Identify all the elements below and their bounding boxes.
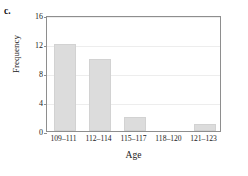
x-axis-tick-label: 121–123 bbox=[190, 134, 217, 143]
y-axis-tick-label: 0 bbox=[39, 128, 43, 137]
x-axis-tick-labels: 109–111112–114115–117118–120121–123 bbox=[46, 134, 221, 146]
x-axis-tick-label: 118–120 bbox=[155, 134, 181, 143]
y-axis-tick-label: 16 bbox=[35, 12, 43, 21]
y-axis-title: Frequency bbox=[11, 14, 21, 94]
bar bbox=[124, 117, 146, 132]
x-axis-title: Age bbox=[46, 150, 221, 160]
y-axis-tick-mark bbox=[44, 75, 47, 76]
y-axis-tick-mark bbox=[44, 104, 47, 105]
plot-area bbox=[46, 16, 221, 132]
bar bbox=[89, 59, 111, 132]
bar-slot bbox=[152, 17, 187, 131]
x-axis-tick-label: 115–117 bbox=[120, 134, 146, 143]
bar-slot bbox=[187, 17, 222, 131]
bar-slot bbox=[47, 17, 82, 131]
y-axis-tick-label: 8 bbox=[39, 70, 43, 79]
y-axis-tick-mark bbox=[44, 17, 47, 18]
bar bbox=[54, 44, 76, 131]
y-axis-tick-mark bbox=[44, 46, 47, 47]
bar-slot bbox=[82, 17, 117, 131]
y-axis-tick-labels: 0481216 bbox=[30, 16, 43, 132]
bar bbox=[194, 124, 216, 131]
bar-series bbox=[47, 17, 220, 131]
figure-panel: c. Frequency 0481216 109–111112–114115–1… bbox=[0, 0, 248, 176]
bar-slot bbox=[117, 17, 152, 131]
x-axis-tick-label: 112–114 bbox=[85, 134, 111, 143]
x-axis-tick-label: 109–111 bbox=[50, 134, 76, 143]
y-axis-tick-label: 12 bbox=[35, 41, 43, 50]
panel-letter: c. bbox=[4, 7, 11, 17]
y-axis-tick-label: 4 bbox=[39, 99, 43, 108]
